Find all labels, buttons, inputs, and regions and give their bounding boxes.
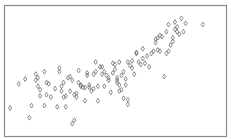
scatter-plot-svg	[0, 0, 231, 139]
